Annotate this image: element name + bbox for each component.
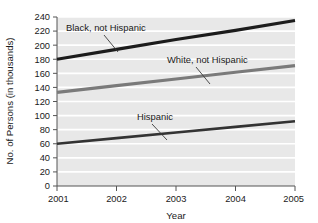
y-tick-label: 120 (34, 97, 50, 107)
y-tick-label: 100 (34, 111, 50, 121)
series-label-white-not-hispanic: White, not Hispanic (167, 54, 248, 65)
y-tick-label: 140 (34, 83, 50, 93)
y-tick-label: 80 (40, 125, 50, 135)
line-chart: 020406080100120140160180200220240 200120… (0, 0, 318, 223)
series-label-black-not-hispanic: Black, not Hispanic (66, 22, 146, 33)
y-tick-label: 0 (45, 181, 50, 191)
x-tick-label: 2004 (225, 194, 246, 204)
y-tick-label: 60 (40, 139, 50, 149)
x-tick-label: 2001 (48, 194, 69, 204)
x-axis-title: Year (166, 210, 186, 221)
x-tick-label: 2002 (106, 194, 127, 204)
y-tick-label: 40 (40, 153, 50, 163)
series-label-hispanic: Hispanic (137, 111, 173, 122)
y-tick-label: 180 (34, 55, 50, 65)
chart-container: 020406080100120140160180200220240 200120… (0, 0, 318, 223)
x-tick-label: 2003 (166, 194, 187, 204)
x-tick-label: 2005 (283, 194, 304, 204)
y-axis-ticks: 020406080100120140160180200220240 (34, 12, 57, 191)
y-tick-label: 200 (34, 41, 50, 51)
y-tick-label: 160 (34, 69, 50, 79)
y-tick-label: 220 (34, 26, 50, 36)
y-tick-label: 240 (34, 12, 50, 22)
x-axis-ticks: 20012002200320042005 (48, 186, 304, 204)
y-axis-title: No. of Persons (in thousands) (4, 38, 15, 165)
y-tick-label: 20 (40, 167, 50, 177)
